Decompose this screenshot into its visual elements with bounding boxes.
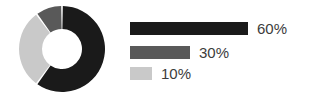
- legend-label-series-3: 10%: [161, 66, 191, 81]
- donut-chart-svg: [0, 0, 125, 104]
- legend-label-series-2: 30%: [199, 45, 229, 60]
- legend-item-series-2[interactable]: 30%: [130, 45, 229, 59]
- legend-item-series-1[interactable]: 60%: [130, 21, 287, 35]
- donut-chart: [0, 0, 125, 104]
- donut-chart-figure: 60% 30% 10%: [0, 0, 312, 104]
- legend-label-series-1: 60%: [257, 21, 287, 36]
- legend-item-series-3[interactable]: 10%: [130, 66, 191, 80]
- chart-legend: 60% 30% 10%: [130, 0, 312, 104]
- legend-swatch-bar-series-2: [130, 46, 190, 59]
- legend-swatch-bar-series-3: [130, 67, 152, 80]
- donut-slice-group: [19, 6, 105, 92]
- legend-swatch-bar-series-1: [130, 22, 248, 35]
